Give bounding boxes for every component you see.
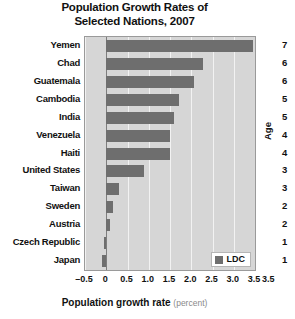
chart-legend: LDC <box>211 252 252 267</box>
bar-row <box>85 219 255 231</box>
bar <box>106 112 174 124</box>
bar <box>106 130 170 142</box>
category-label: Haiti <box>0 147 80 158</box>
x-tick-label: 1.0 <box>141 274 154 284</box>
bar <box>106 201 113 213</box>
category-label: United States <box>0 164 80 175</box>
bar-row <box>85 148 255 160</box>
bar <box>106 183 119 195</box>
category-axis-labels: YemenChadGuatemalaCambodiaIndiaVenezuela… <box>0 36 80 271</box>
bar-row <box>85 130 255 142</box>
bar-row <box>85 40 255 52</box>
adjacent-chart-tick-label: 1 <box>282 254 287 265</box>
adjacent-chart-tick-label: 2 <box>282 218 287 229</box>
adjacent-chart-tick-label: 1 <box>282 236 287 247</box>
bar <box>106 94 179 106</box>
adjacent-chart-tick-label: 7 <box>282 39 287 50</box>
category-label: Chad <box>0 57 80 68</box>
bar-row <box>85 201 255 213</box>
plot-area: LDC <box>84 36 256 271</box>
adjacent-chart-tick-label: 6 <box>282 75 287 86</box>
chart-figure: Population Growth Rates of Selected Nati… <box>0 0 295 319</box>
x-axis-label-text: Population growth rate <box>62 297 171 308</box>
category-label: Yemen <box>0 39 80 50</box>
x-tick-label: 0 <box>103 274 108 284</box>
x-tick-label: 2.0 <box>184 274 197 284</box>
bar-row <box>85 165 255 177</box>
category-label: Venezuela <box>0 129 80 140</box>
category-label: Czech Republic <box>0 236 80 247</box>
bar <box>106 219 109 231</box>
legend-swatch-ldc <box>215 256 223 264</box>
chart-title-line-2: Selected Nations, 2007 <box>12 15 257 29</box>
bar-row <box>85 237 255 249</box>
bar <box>106 76 194 88</box>
x-tick-label: 3.0 <box>226 274 239 284</box>
x-axis-label-units: (percent) <box>173 298 207 308</box>
adjacent-chart-clipped: Age 7665544332211 <box>262 36 295 271</box>
category-label: Austria <box>0 218 80 229</box>
x-axis-label: Population growth rate (percent) <box>12 297 257 308</box>
category-label: India <box>0 111 80 122</box>
adjacent-chart-tick-label: 2 <box>282 200 287 211</box>
category-label: Taiwan <box>0 182 80 193</box>
adjacent-chart-tick-label: 3 <box>282 182 287 193</box>
category-label: Japan <box>0 254 80 265</box>
x-axis-tick-labels: –0.500.51.01.52.02.53.03.5 <box>84 274 256 287</box>
adjacent-chart-tick-label: 5 <box>282 111 287 122</box>
adjacent-chart-axis-title: Age <box>262 122 273 140</box>
adjacent-chart-tick-label: 5 <box>282 93 287 104</box>
bar <box>106 148 170 160</box>
bar <box>106 165 144 177</box>
bar-row <box>85 94 255 106</box>
x-tick-label: –0.5 <box>75 274 93 284</box>
bar <box>102 255 106 267</box>
adjacent-chart-x-tick: 3.5 <box>262 274 275 284</box>
chart-title: Population Growth Rates of Selected Nati… <box>12 1 257 28</box>
adjacent-chart-tick-label: 4 <box>282 147 287 158</box>
category-label: Guatemala <box>0 75 80 86</box>
gridline <box>255 37 256 270</box>
bar <box>106 58 203 70</box>
bar-row <box>85 58 255 70</box>
category-label: Sweden <box>0 200 80 211</box>
adjacent-chart-tick-label: 3 <box>282 164 287 175</box>
bar-row <box>85 76 255 88</box>
bar-row <box>85 112 255 124</box>
x-tick-label: 2.5 <box>205 274 218 284</box>
x-tick-label: 3.5 <box>248 274 261 284</box>
x-tick-label: 0.5 <box>120 274 133 284</box>
bar <box>104 237 107 249</box>
legend-label-ldc: LDC <box>227 255 246 264</box>
bar-row <box>85 183 255 195</box>
category-label: Cambodia <box>0 93 80 104</box>
bar <box>106 40 253 52</box>
adjacent-chart-tick-label: 4 <box>282 129 287 140</box>
adjacent-chart-tick-label: 6 <box>282 57 287 68</box>
chart-title-line-1: Population Growth Rates of <box>61 1 207 13</box>
x-tick-label: 1.5 <box>163 274 176 284</box>
